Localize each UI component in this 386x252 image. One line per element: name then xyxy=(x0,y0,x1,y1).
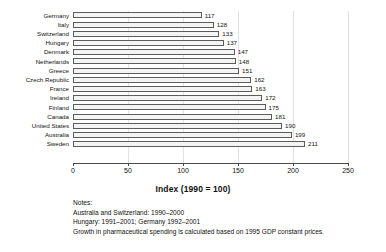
bar-row: Netherlands148 xyxy=(73,57,348,66)
bar-row: Denmark147 xyxy=(73,48,348,57)
category-label: Switzerland xyxy=(37,29,69,38)
plot-area: Germany117Italy128Switzerland133Hungary1… xyxy=(73,11,348,163)
bar xyxy=(73,68,239,74)
bar xyxy=(73,104,266,110)
bar xyxy=(73,22,214,28)
bar xyxy=(73,12,202,18)
bar xyxy=(73,141,305,147)
bar-row: Sweden211 xyxy=(73,140,348,149)
x-tick-200 xyxy=(293,163,294,166)
x-axis-line xyxy=(73,163,348,164)
notes-line-3: Growth in pharmaceutical spending is cal… xyxy=(73,227,324,237)
value-label: 151 xyxy=(242,66,252,75)
value-label: 128 xyxy=(217,20,227,29)
value-label: 211 xyxy=(308,139,318,148)
x-tick-250 xyxy=(348,163,349,166)
x-tick-150 xyxy=(238,163,239,166)
value-label: 148 xyxy=(239,57,249,66)
bar xyxy=(73,40,224,46)
value-label: 163 xyxy=(255,84,265,93)
notes-line-1: Australia and Switzerland: 1990–2000 xyxy=(73,208,324,218)
category-label: France xyxy=(50,84,69,93)
bar-row: France163 xyxy=(73,85,348,94)
bar-row: Switzerland133 xyxy=(73,29,348,38)
bar-row: Ireland172 xyxy=(73,94,348,103)
value-label: 117 xyxy=(205,11,215,20)
value-label: 181 xyxy=(275,112,285,121)
category-label: Ireland xyxy=(50,93,69,102)
value-label: 199 xyxy=(295,130,305,139)
category-label: Canada xyxy=(47,112,69,121)
x-tick-label-100: 100 xyxy=(177,167,189,174)
bar xyxy=(73,49,235,55)
category-label: United States xyxy=(32,121,69,130)
bar xyxy=(73,31,219,37)
notes-line-2: Hungary: 1991–2001; Germany 1992–2001 xyxy=(73,217,324,227)
value-label: 190 xyxy=(285,121,295,130)
x-tick-label-150: 150 xyxy=(232,167,244,174)
x-axis-title: Index (1990 = 100) xyxy=(0,184,386,194)
bar xyxy=(73,77,251,83)
bar-chart: Germany117Italy128Switzerland133Hungary1… xyxy=(0,0,386,252)
category-label: Czech Republic xyxy=(26,75,69,84)
x-tick-label-0: 0 xyxy=(71,167,75,174)
bar xyxy=(73,114,272,120)
x-tick-label-50: 50 xyxy=(124,167,132,174)
bar xyxy=(73,95,262,101)
category-label: Denmark xyxy=(44,47,69,56)
bar-row: Czech Republic162 xyxy=(73,75,348,84)
category-label: Germany xyxy=(44,11,69,20)
bar-row: Greece151 xyxy=(73,66,348,75)
category-label: Netherlands xyxy=(36,57,69,66)
value-label: 172 xyxy=(265,93,275,102)
bar xyxy=(73,86,252,92)
value-label: 162 xyxy=(254,75,264,84)
value-label: 147 xyxy=(238,47,248,56)
bar-row: Germany117 xyxy=(73,11,348,20)
category-label: Greece xyxy=(49,66,69,75)
bar-row: Italy128 xyxy=(73,20,348,29)
bar xyxy=(73,58,236,64)
value-label: 175 xyxy=(269,103,279,112)
x-tick-0 xyxy=(73,163,74,166)
category-label: Italy xyxy=(58,20,69,29)
category-label: Finland xyxy=(49,103,69,112)
x-tick-label-200: 200 xyxy=(287,167,299,174)
bar-row: United States190 xyxy=(73,121,348,130)
x-tick-100 xyxy=(183,163,184,166)
gridline-250 xyxy=(348,11,349,163)
category-label: Australia xyxy=(45,130,69,139)
category-label: Hungary xyxy=(46,38,69,47)
bar-row: Canada181 xyxy=(73,112,348,121)
x-tick-label-250: 250 xyxy=(342,167,354,174)
category-label: Sweden xyxy=(47,139,69,148)
value-label: 133 xyxy=(222,29,232,38)
bar-row: Hungary137 xyxy=(73,39,348,48)
notes-heading: Notes: xyxy=(73,198,324,208)
bar xyxy=(73,132,292,138)
bar xyxy=(73,123,282,129)
bar-row: Finland175 xyxy=(73,103,348,112)
value-label: 137 xyxy=(227,38,237,47)
bar-row: Australia199 xyxy=(73,131,348,140)
x-tick-50 xyxy=(128,163,129,166)
notes-block: Notes: Australia and Switzerland: 1990–2… xyxy=(73,198,324,236)
